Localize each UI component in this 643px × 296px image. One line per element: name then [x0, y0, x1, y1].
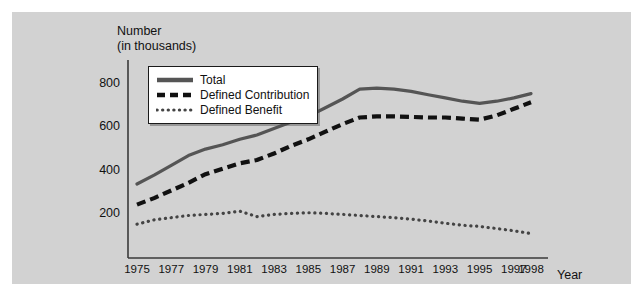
legend-key-icon: [156, 89, 194, 101]
y-axis-title-line1: Number: [117, 24, 161, 38]
legend-label: Defined Contribution: [200, 88, 309, 102]
legend-key-icon: [156, 74, 194, 86]
legend-label: Total: [200, 73, 225, 87]
y-axis-title-line2: (in thousands): [117, 39, 196, 53]
y-tick-800: 800: [80, 76, 120, 90]
x-tick-1998: 1998: [511, 263, 551, 275]
legend-item-defined-contribution: Defined Contribution: [149, 87, 309, 102]
legend-label: Defined Benefit: [200, 103, 282, 117]
y-tick-600: 600: [80, 119, 120, 133]
y-axis-title: Number (in thousands): [117, 24, 196, 53]
legend-item-total: Total: [149, 72, 309, 87]
series-line-defined-benefit: [137, 211, 531, 233]
legend-key-icon: [156, 104, 194, 116]
chart-legend: TotalDefined ContributionDefined Benefit: [148, 66, 318, 124]
y-tick-400: 400: [80, 163, 120, 177]
chart-figure: Number (in thousands) Year 200400600800 …: [0, 0, 643, 296]
y-tick-200: 200: [80, 206, 120, 220]
chart-panel: Number (in thousands) Year 200400600800 …: [12, 12, 631, 284]
plot-svg: [12, 12, 631, 284]
x-axis-title: Year: [557, 268, 582, 283]
plot-area: [12, 12, 631, 284]
legend-item-defined-benefit: Defined Benefit: [149, 102, 309, 117]
